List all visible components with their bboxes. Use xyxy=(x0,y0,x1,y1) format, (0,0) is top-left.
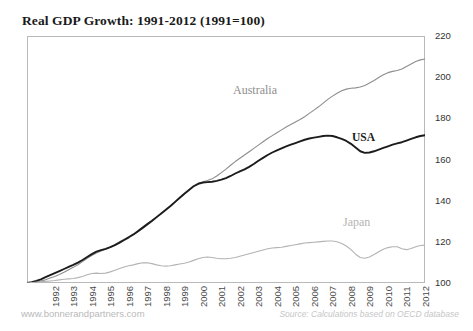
x-tick-label: 1992 xyxy=(50,286,61,307)
x-tick-label: 1998 xyxy=(161,286,172,307)
footer-website[interactable]: www.bonnerandpartners.com xyxy=(21,308,145,319)
x-tick-label: 2012 xyxy=(420,286,431,307)
x-tick-label: 2007 xyxy=(327,286,338,307)
x-tick-label: 2003 xyxy=(253,286,264,307)
plot-area: Australia USA Japan xyxy=(27,36,425,283)
y-tick-label: 120 xyxy=(435,236,451,247)
series-label-japan: Japan xyxy=(343,215,370,230)
x-tick-label: 2009 xyxy=(364,286,375,307)
x-tick-label: 2008 xyxy=(346,286,357,307)
x-tick-label: 1997 xyxy=(142,286,153,307)
series-label-australia: Australia xyxy=(233,83,277,98)
x-tick-label: 2005 xyxy=(290,286,301,307)
y-tick-label: 220 xyxy=(435,30,451,41)
y-tick-label: 160 xyxy=(435,154,451,165)
x-tick-label: 2000 xyxy=(198,286,209,307)
series-line-australia xyxy=(27,59,425,283)
x-tick-label: 2011 xyxy=(401,287,412,307)
x-tick-label: 2002 xyxy=(235,286,246,307)
x-tick-label: 1999 xyxy=(179,286,190,307)
y-tick-label: 200 xyxy=(435,71,451,82)
chart-figure: Real GDP Growth: 1991-2012 (1991=100) Au… xyxy=(0,0,473,331)
series-line-japan xyxy=(27,241,425,283)
chart-title: Real GDP Growth: 1991-2012 (1991=100) xyxy=(22,13,265,29)
footer-source: Source: Calculations based on OECD datab… xyxy=(279,309,459,319)
x-tick-label: 2010 xyxy=(383,286,394,307)
x-tick-label: 1995 xyxy=(105,286,116,307)
series-label-usa: USA xyxy=(352,131,375,143)
y-tick-label: 180 xyxy=(435,112,451,123)
y-tick-label: 100 xyxy=(435,277,451,288)
x-tick-label: 2004 xyxy=(272,286,283,307)
series-lines xyxy=(27,36,425,283)
x-tick-label: 1994 xyxy=(87,286,98,307)
y-tick-label: 140 xyxy=(435,195,451,206)
x-tick-label: 1993 xyxy=(68,286,79,307)
x-tick-label: 2001 xyxy=(216,286,227,307)
x-tick-label: 1996 xyxy=(124,286,135,307)
x-tick-label: 2006 xyxy=(309,286,320,307)
series-line-usa xyxy=(27,135,425,283)
